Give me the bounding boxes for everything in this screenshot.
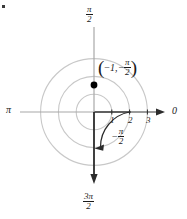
close-paren: ) — [131, 60, 137, 76]
three-pi-over-2-fraction: 3π 2 — [83, 192, 94, 212]
point-coordinate-row: ( − 1 , − π 2 ) — [98, 58, 137, 78]
plotted-point — [91, 82, 98, 89]
angle-arc-row: − π 2 — [112, 127, 124, 147]
axis-label-3pi-over-2: 3π 2 — [83, 192, 94, 212]
axis-label-zero-text: 0 — [172, 105, 177, 116]
polar-plot-canvas — [0, 0, 187, 219]
axis-label-pi-text: π — [6, 104, 11, 115]
tick-label-1-text: 1 — [110, 115, 115, 125]
y-axis-arrowhead — [90, 174, 97, 184]
polar-plot-figure: 0 π π 2 3π 2 1 2 3 ( − 1 , − — [0, 0, 187, 219]
point-coordinate-label: ( − 1 , − π 2 ) — [98, 58, 137, 78]
tick-label-3: 3 — [146, 116, 151, 125]
x-axis-arrowhead — [156, 108, 165, 115]
angle-fraction: π 2 — [118, 127, 125, 147]
pi-over-2-denominator: 2 — [86, 15, 93, 24]
tick-label-2-text: 2 — [128, 115, 133, 125]
tick-label-2: 2 — [128, 116, 133, 125]
axis-label-zero: 0 — [172, 106, 177, 116]
axis-label-pi-over-2: π 2 — [86, 5, 93, 25]
tick-label-3-text: 3 — [146, 115, 151, 125]
angle-denominator: 2 — [118, 137, 125, 146]
three-pi-over-2-denominator: 2 — [83, 202, 94, 211]
tick-label-1: 1 — [110, 116, 115, 125]
angle-arc-label: − π 2 — [112, 127, 124, 147]
pi-over-2-fraction: π 2 — [86, 5, 93, 25]
axis-label-pi: π — [6, 105, 11, 115]
